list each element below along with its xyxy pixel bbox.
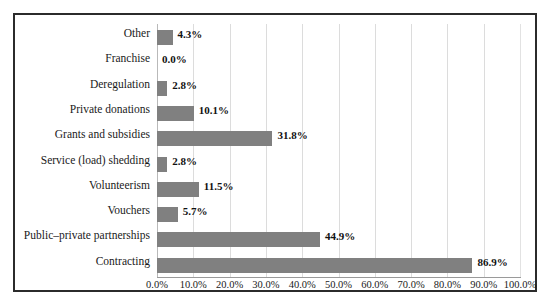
x-tick-label: 100.0%: [504, 279, 536, 290]
x-tick-label: 20.0%: [216, 279, 243, 290]
category-label: Vouchers: [107, 204, 150, 216]
category-label: Deregulation: [90, 78, 150, 90]
x-tick-label: 70.0%: [398, 279, 425, 290]
bar: [157, 106, 194, 121]
bar-rows: Other4.3%Franchise0.0%Deregulation2.8%Pr…: [157, 24, 520, 277]
category-label: Contracting: [96, 255, 150, 267]
bar: [157, 30, 173, 45]
bar: [157, 232, 320, 247]
bar-value-label: 44.9%: [325, 230, 355, 242]
x-axis-tick-labels: 0.0%10.0%20.0%30.0%40.0%50.0%60.0%70.0%8…: [157, 279, 520, 295]
x-tick-label: 30.0%: [252, 279, 279, 290]
bar-value-label: 31.8%: [277, 129, 307, 141]
bar-row: Deregulation2.8%: [157, 75, 520, 100]
category-label: Service (load) shedding: [41, 154, 150, 166]
bar-row: Private donations10.1%: [157, 100, 520, 125]
bar-value-label: 0.0%: [162, 53, 187, 65]
bar-value-label: 11.5%: [204, 180, 234, 192]
bar: [157, 207, 178, 222]
x-tick-label: 60.0%: [361, 279, 388, 290]
x-tick-label: 50.0%: [325, 279, 352, 290]
bar-value-label: 2.8%: [172, 155, 197, 167]
category-label: Other: [124, 27, 150, 39]
bar-row: Other4.3%: [157, 24, 520, 49]
x-tick-label: 80.0%: [434, 279, 461, 290]
bar-row: Service (load) shedding2.8%: [157, 151, 520, 176]
gridline-100.0%: [520, 24, 521, 277]
bar-row: Franchise0.0%: [157, 49, 520, 74]
bar: [157, 131, 272, 146]
bar-value-label: 2.8%: [172, 79, 197, 91]
bar-row: Public–private partnerships44.9%: [157, 226, 520, 251]
plot-area: Other4.3%Franchise0.0%Deregulation2.8%Pr…: [157, 24, 520, 277]
bar: [157, 258, 472, 273]
bar-value-label: 86.9%: [477, 256, 507, 268]
bar: [157, 182, 199, 197]
x-tick-label: 90.0%: [470, 279, 497, 290]
bar-row: Volunteerism11.5%: [157, 176, 520, 201]
bar-row: Vouchers5.7%: [157, 201, 520, 226]
bar-row: Contracting86.9%: [157, 252, 520, 277]
chart-frame: Other4.3%Franchise0.0%Deregulation2.8%Pr…: [13, 13, 537, 292]
bar: [157, 157, 167, 172]
x-tick-label: 40.0%: [289, 279, 316, 290]
category-label: Public–private partnerships: [24, 229, 150, 241]
x-axis-line: [157, 277, 521, 278]
category-label: Volunteerism: [89, 179, 150, 191]
bar-value-label: 5.7%: [183, 205, 208, 217]
category-label: Private donations: [70, 103, 150, 115]
category-label: Franchise: [105, 52, 150, 64]
category-label: Grants and subsidies: [55, 128, 150, 140]
x-tick-label: 10.0%: [180, 279, 207, 290]
bar-value-label: 10.1%: [199, 104, 229, 116]
x-tick-label: 0.0%: [146, 279, 168, 290]
bar-value-label: 4.3%: [178, 28, 203, 40]
bar-row: Grants and subsidies31.8%: [157, 125, 520, 150]
bar: [157, 81, 167, 96]
